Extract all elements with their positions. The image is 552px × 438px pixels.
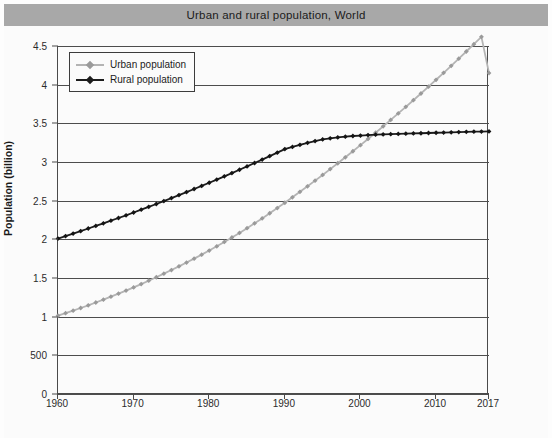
data-point-marker — [93, 224, 98, 229]
chart-title-bar: Urban and rural population, World — [4, 4, 548, 26]
data-point-marker — [124, 213, 129, 218]
y-tick-mark — [52, 162, 58, 163]
y-tick-label: 1 — [4, 311, 47, 322]
page-title: Urban and rural population, World — [187, 9, 366, 21]
x-tick-mark — [57, 394, 58, 399]
data-point-marker — [116, 216, 121, 221]
data-point-marker — [101, 221, 106, 226]
x-tick-mark — [133, 394, 134, 399]
legend-swatch-urban-icon — [76, 59, 104, 71]
data-point-marker — [313, 139, 318, 144]
series-layer — [58, 46, 489, 394]
data-point-marker — [434, 130, 439, 135]
legend-label-rural: Rural population — [110, 74, 183, 85]
x-tick-label: 1980 — [197, 398, 219, 409]
data-point-marker — [456, 130, 461, 135]
data-point-marker — [411, 131, 416, 136]
data-point-marker — [388, 132, 393, 137]
data-point-marker — [169, 196, 174, 201]
y-axis-label: Population (billion) — [2, 141, 14, 236]
data-point-marker — [350, 134, 355, 139]
x-tick-mark — [284, 394, 285, 399]
data-point-marker — [146, 204, 151, 209]
legend-item-urban: Urban population — [76, 57, 186, 72]
y-tick-label: 2 — [4, 234, 47, 245]
x-tick-mark — [488, 394, 489, 399]
data-point-marker — [63, 234, 68, 239]
data-point-marker — [479, 129, 484, 134]
data-point-marker — [471, 129, 476, 134]
y-tick-label: 500 — [4, 350, 47, 361]
y-tick-mark — [52, 278, 58, 279]
gridline — [58, 394, 489, 395]
data-point-marker — [131, 210, 136, 215]
data-point-marker — [290, 145, 295, 150]
x-tick-mark — [359, 394, 360, 399]
y-tick-mark — [52, 46, 58, 47]
data-point-marker — [396, 132, 401, 137]
x-tick-label: 1960 — [46, 398, 68, 409]
data-point-marker — [381, 132, 386, 137]
x-tick-mark — [208, 394, 209, 399]
x-tick-label: 2000 — [348, 398, 370, 409]
x-tick-label: 2010 — [424, 398, 446, 409]
data-point-marker — [464, 129, 469, 134]
chart-legend: Urban population Rural population — [69, 52, 195, 92]
y-tick-mark — [52, 316, 58, 317]
y-tick-label: 3.5 — [4, 118, 47, 129]
legend-item-rural: Rural population — [76, 72, 186, 87]
plot-area — [57, 46, 488, 394]
data-point-marker — [109, 294, 114, 299]
series-rural — [56, 129, 492, 241]
x-tick-label: 1970 — [121, 398, 143, 409]
data-point-marker — [487, 129, 492, 134]
data-point-marker — [109, 218, 114, 223]
data-point-marker — [426, 131, 431, 136]
x-tick-label: 1990 — [273, 398, 295, 409]
y-tick-label: 4 — [4, 79, 47, 90]
data-point-marker — [335, 135, 340, 140]
data-point-marker — [403, 131, 408, 136]
data-point-marker — [78, 229, 83, 234]
series-line — [58, 131, 489, 238]
y-tick-label: 4.5 — [4, 41, 47, 52]
y-tick-mark — [52, 84, 58, 85]
data-point-marker — [487, 71, 492, 76]
data-point-marker — [298, 142, 303, 147]
data-point-marker — [63, 311, 68, 316]
y-tick-label: 1.5 — [4, 273, 47, 284]
y-tick-label: 0 — [4, 389, 47, 400]
data-point-marker — [441, 130, 446, 135]
data-point-marker — [93, 300, 98, 305]
legend-label-urban: Urban population — [110, 59, 186, 70]
figure-caption — [4, 426, 548, 438]
data-point-marker — [419, 131, 424, 136]
data-point-marker — [86, 303, 91, 308]
legend-swatch-rural-icon — [76, 74, 104, 86]
data-point-marker — [343, 134, 348, 139]
data-point-marker — [71, 308, 76, 313]
y-tick-label: 2.5 — [4, 195, 47, 206]
data-point-marker — [320, 137, 325, 142]
data-point-marker — [449, 130, 454, 135]
data-point-marker — [199, 183, 204, 188]
data-point-marker — [358, 133, 363, 138]
x-tick-label: 2017 — [477, 398, 499, 409]
data-point-marker — [184, 190, 189, 195]
data-point-marker — [86, 226, 91, 231]
x-tick-mark — [435, 394, 436, 399]
y-tick-mark — [52, 123, 58, 124]
data-point-marker — [71, 231, 76, 236]
data-point-marker — [177, 193, 182, 198]
figure-body: Population (billion) 4.543.532.521.51500… — [4, 26, 548, 426]
data-point-marker — [101, 297, 106, 302]
data-point-marker — [161, 199, 166, 204]
y-tick-mark — [52, 355, 58, 356]
data-point-marker — [116, 291, 121, 296]
data-point-marker — [192, 187, 197, 192]
y-tick-mark — [52, 200, 58, 201]
data-point-marker — [139, 207, 144, 212]
chart-figure: Urban and rural population, World Popula… — [0, 0, 552, 438]
y-tick-mark — [52, 239, 58, 240]
data-point-marker — [328, 136, 333, 141]
